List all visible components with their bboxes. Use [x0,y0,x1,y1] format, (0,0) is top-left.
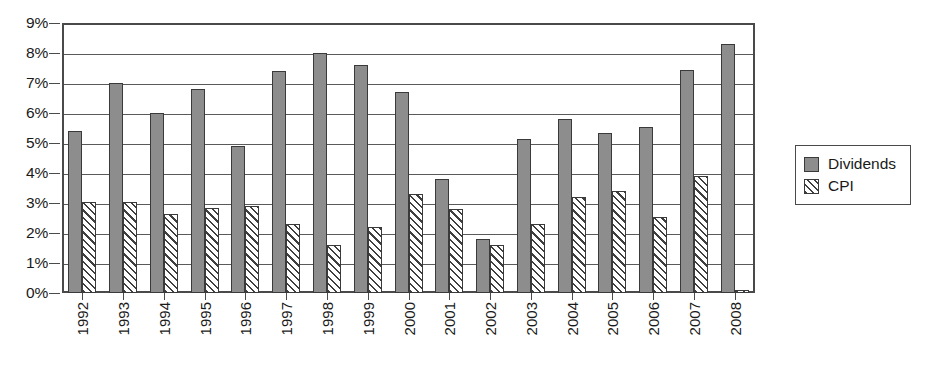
x-axis-tick-label: 1992 [75,302,90,335]
x-axis-tick-label: 2007 [686,302,701,335]
bar-dividends-2006 [639,127,653,294]
bar-dividends-2007 [680,70,694,294]
bar-cpi-2000 [409,194,423,293]
x-axis-tick-label: 1994 [156,302,171,335]
x-axis-tick-mark [572,293,573,300]
bar-cpi-2004 [572,197,586,293]
x-axis-cell: 2005 [592,293,633,370]
x-axis: 1992199319941995199619971998199920002001… [62,293,755,370]
y-axis-tick-label: 1% [26,255,48,271]
bar-cpi-2003 [531,224,545,293]
x-axis-tick-mark [205,293,206,300]
y-axis-tick-mark [49,233,60,234]
y-axis-tick-label: 9% [26,15,48,31]
solid-gray-swatch-icon [804,157,819,172]
y-axis-tick-mark [49,143,60,144]
x-axis-cell: 2008 [714,293,755,370]
bar-group [266,23,307,293]
bar-group [184,23,225,293]
y-axis-tick-mark [49,83,60,84]
bar-group [714,23,755,293]
x-axis-tick-label: 1997 [279,302,294,335]
x-axis-tick-label: 2005 [605,302,620,335]
bar-group [225,23,266,293]
x-axis-tick-label: 2003 [523,302,538,335]
bar-cpi-1998 [327,245,341,293]
x-axis-tick-mark [245,293,246,300]
x-axis-tick-label: 2006 [646,302,661,335]
y-axis-tick-label: 8% [26,45,48,61]
bar-cpi-2007 [694,176,708,293]
bar-cpi-2001 [449,209,463,293]
bar-cpi-1993 [123,202,137,294]
y-axis-tick-label: 7% [26,75,48,91]
y-axis-tick-label: 2% [26,225,48,241]
chart-legend: Dividends CPI [795,145,911,205]
bar-cpi-1995 [205,208,219,294]
bar-dividends-2002 [476,239,490,293]
x-axis-cell: 2001 [429,293,470,370]
x-axis-tick-mark [164,293,165,300]
bar-dividends-2004 [558,119,572,293]
bar-group [470,23,511,293]
hatched-swatch-icon [804,179,819,194]
bar-dividends-2003 [517,139,531,294]
y-axis-tick-label: 0% [26,285,48,301]
x-axis-cell: 2003 [510,293,551,370]
x-axis-tick-mark [449,293,450,300]
x-axis-cell: 1997 [266,293,307,370]
legend-item-dividends: Dividends [804,153,896,175]
x-axis-tick-label: 2004 [564,302,579,335]
bar-dividends-2000 [395,92,409,293]
legend-label-cpi: CPI [828,178,854,194]
x-axis-cell: 1999 [347,293,388,370]
bar-cpi-1992 [82,202,96,294]
y-axis-tick-label: 3% [26,195,48,211]
bar-dividends-1996 [231,146,245,293]
bar-dividends-2001 [435,179,449,293]
x-axis-tick-label: 1995 [197,302,212,335]
y-axis-tick-mark [49,263,60,264]
bar-group [673,23,714,293]
y-axis-tick-mark [49,203,60,204]
bar-dividends-1994 [150,113,164,293]
legend-item-cpi: CPI [804,175,896,197]
bar-group [551,23,592,293]
x-axis-cell: 1996 [225,293,266,370]
y-axis-tick-mark [49,23,60,24]
bar-cpi-2006 [653,217,667,294]
bar-group [307,23,348,293]
x-axis-tick-label: 2008 [727,302,742,335]
bar-group [144,23,185,293]
y-axis-tick-mark [49,293,60,294]
y-axis-tick-mark [49,113,60,114]
x-axis-tick-label: 1999 [360,302,375,335]
x-axis-tick-label: 2000 [401,302,416,335]
bar-dividends-2005 [598,133,612,294]
y-axis-tick-label: 5% [26,135,48,151]
bar-group [347,23,388,293]
y-axis-tick-mark [49,53,60,54]
chart-container: 0%1%2%3%4%5%6%7%8%9% 1992199319941995199… [0,0,940,370]
x-axis-tick-mark [490,293,491,300]
bar-group [62,23,103,293]
bar-cpi-2005 [612,191,626,293]
x-axis-tick-mark [327,293,328,300]
x-axis-cell: 1994 [144,293,185,370]
y-axis-tick-label: 6% [26,105,48,121]
bar-groups [62,23,755,293]
x-axis-tick-label: 2001 [442,302,457,335]
x-axis-tick-mark [735,293,736,300]
bar-cpi-1997 [286,224,300,293]
x-axis-cell: 2002 [470,293,511,370]
x-axis-tick-label: 1998 [319,302,334,335]
bar-group [103,23,144,293]
x-axis-tick-label: 1993 [116,302,131,335]
x-axis-cell: 2006 [633,293,674,370]
legend-label-dividends: Dividends [828,156,896,172]
x-axis-tick-mark [286,293,287,300]
bar-cpi-1999 [368,227,382,293]
bar-dividends-1992 [68,131,82,293]
x-axis-cell: 1998 [307,293,348,370]
bar-dividends-1993 [109,83,123,293]
